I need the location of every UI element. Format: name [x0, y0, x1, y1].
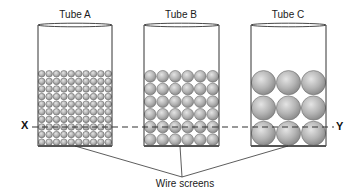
sphere — [144, 83, 156, 95]
sphere — [251, 121, 275, 145]
sphere — [68, 78, 75, 85]
sphere — [98, 109, 105, 116]
sphere — [90, 71, 97, 78]
sphere — [207, 108, 219, 120]
sphere — [75, 116, 82, 123]
sphere — [157, 83, 169, 95]
sphere — [68, 139, 75, 146]
sphere — [207, 134, 219, 146]
sphere — [46, 86, 53, 93]
sphere — [53, 139, 60, 146]
sphere — [157, 70, 169, 82]
x-label: X — [21, 119, 28, 131]
tubes-diagram — [0, 0, 360, 194]
sphere — [46, 139, 53, 146]
sphere — [276, 121, 300, 145]
sphere — [144, 134, 156, 146]
sphere — [61, 71, 68, 78]
sphere — [46, 93, 53, 100]
sphere — [53, 131, 60, 138]
sphere — [90, 78, 97, 85]
sphere — [157, 134, 169, 146]
sphere — [105, 86, 112, 93]
sphere — [46, 101, 53, 108]
sphere — [61, 131, 68, 138]
sphere — [98, 116, 105, 123]
sphere — [98, 86, 105, 93]
sphere — [182, 70, 194, 82]
sphere — [46, 109, 53, 116]
sphere — [105, 116, 112, 123]
sphere — [46, 116, 53, 123]
sphere — [144, 96, 156, 108]
sphere — [53, 71, 60, 78]
sphere — [38, 101, 45, 108]
sphere — [83, 93, 90, 100]
sphere — [61, 93, 68, 100]
sphere — [105, 101, 112, 108]
sphere — [75, 78, 82, 85]
sphere — [194, 108, 206, 120]
sphere — [68, 86, 75, 93]
sphere — [105, 71, 112, 78]
sphere — [169, 83, 181, 95]
sphere — [53, 101, 60, 108]
sphere — [68, 93, 75, 100]
sphere — [53, 78, 60, 85]
sphere — [98, 78, 105, 85]
tube-b-label: Tube B — [165, 9, 197, 20]
sphere — [68, 101, 75, 108]
sphere — [182, 96, 194, 108]
sphere — [182, 108, 194, 120]
sphere — [75, 86, 82, 93]
sphere — [90, 101, 97, 108]
sphere — [75, 139, 82, 146]
sphere — [157, 96, 169, 108]
tube-rim — [38, 23, 112, 27]
sphere — [75, 101, 82, 108]
sphere — [75, 131, 82, 138]
sphere — [251, 71, 275, 95]
sphere — [194, 96, 206, 108]
sphere — [53, 109, 60, 116]
sphere — [75, 93, 82, 100]
sphere — [90, 131, 97, 138]
sphere — [38, 139, 45, 146]
sphere — [83, 71, 90, 78]
sphere — [144, 108, 156, 120]
sphere — [46, 131, 53, 138]
sphere — [38, 131, 45, 138]
tube-a-label: Tube A — [59, 9, 90, 20]
sphere — [98, 131, 105, 138]
sphere — [75, 71, 82, 78]
sphere — [68, 131, 75, 138]
sphere — [68, 109, 75, 116]
sphere — [98, 93, 105, 100]
sphere — [194, 70, 206, 82]
sphere — [169, 108, 181, 120]
sphere — [169, 134, 181, 146]
sphere — [301, 96, 325, 120]
sphere — [98, 101, 105, 108]
y-label: Y — [336, 120, 343, 132]
sphere — [105, 139, 112, 146]
sphere — [182, 134, 194, 146]
tube-rim — [251, 23, 326, 27]
sphere — [194, 134, 206, 146]
sphere — [207, 83, 219, 95]
sphere — [301, 121, 325, 145]
sphere — [105, 93, 112, 100]
sphere — [105, 131, 112, 138]
sphere — [301, 71, 325, 95]
sphere — [83, 116, 90, 123]
sphere — [38, 93, 45, 100]
sphere — [75, 109, 82, 116]
sphere — [182, 83, 194, 95]
wire-screens-label: Wire screens — [156, 178, 214, 189]
sphere — [61, 86, 68, 93]
sphere — [90, 86, 97, 93]
sphere — [46, 78, 53, 85]
sphere — [169, 96, 181, 108]
sphere — [207, 70, 219, 82]
sphere — [105, 78, 112, 85]
